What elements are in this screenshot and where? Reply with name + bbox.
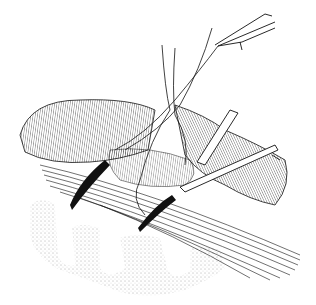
- hatched-tissue-mass: [20, 100, 287, 205]
- stippled-bone: [30, 200, 225, 295]
- illustration-svg: [0, 0, 316, 305]
- forceps-upper-right: [215, 14, 275, 50]
- surgical-illustration: [0, 0, 316, 305]
